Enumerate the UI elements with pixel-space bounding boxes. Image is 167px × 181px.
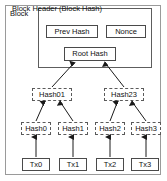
node-hash0: Hash0 [21, 122, 51, 135]
node-tx1: Tx1 [59, 158, 87, 171]
node-tx0: Tx0 [22, 158, 50, 171]
node-hash01: Hash01 [32, 88, 72, 101]
node-hash23: Hash23 [104, 88, 144, 101]
node-hash1: Hash1 [58, 122, 88, 135]
node-nonce: Nonce [106, 25, 146, 38]
node-hash3: Hash3 [131, 122, 161, 135]
diagram-canvas: Block Block Header (Block Hash) Prev Has… [0, 0, 167, 181]
node-tx3: Tx3 [131, 158, 159, 171]
node-prev-hash: Prev Hash [46, 25, 98, 38]
node-hash2: Hash2 [95, 122, 125, 135]
node-root-hash: Root Hash [64, 47, 116, 61]
block-header-title: Block Header (Block Hash) [0, 4, 114, 13]
node-tx2: Tx2 [96, 158, 124, 171]
